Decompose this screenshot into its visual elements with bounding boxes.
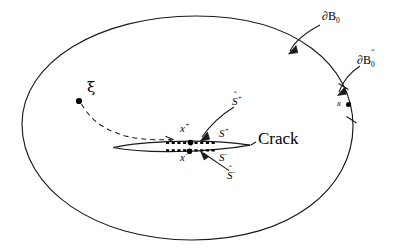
- smoothed-boundary-label-partial: ∂B: [357, 53, 371, 67]
- surface-lower-label: S-: [219, 152, 227, 163]
- outer-boundary-label-sub: 0: [336, 16, 340, 25]
- surface-upper-label: S+: [219, 128, 229, 139]
- crack-label-leader-line: [251, 142, 257, 145]
- source-point-label: ξ: [87, 80, 95, 95]
- hat-accent-icon: ˆ: [233, 91, 236, 100]
- crack-point-lower-marker: [187, 148, 193, 154]
- smoothed-boundary-leader-arrow: [339, 66, 360, 92]
- outer-boundary-label-text: ∂B: [322, 9, 336, 23]
- surface-hat-lower-label: ˆS-: [227, 170, 235, 181]
- figure-vector-layer: [0, 0, 415, 248]
- surface-hat-upper-hat-group: ˆS: [232, 96, 238, 107]
- crack-point-upper-marker: [188, 140, 194, 146]
- smoothed-boundary-label-sub: 0: [371, 60, 375, 69]
- smoothed-boundary-label: ∂Bˆ0: [357, 54, 375, 66]
- hat-accent-icon: ˆ: [371, 49, 374, 59]
- crack-lens-upper-face: [113, 141, 250, 147]
- boundary-tick-lower: [347, 117, 357, 124]
- crack-body-schematic-figure: ∂B0 ∂Bˆ0 x ξ x+ x- S+ S- ˆS+ ˆS- Crack: [0, 0, 415, 248]
- surface-lower-label-sup: -: [225, 150, 227, 157]
- crack-point-lower-label: x-: [180, 152, 187, 163]
- boundary-point-label: x: [337, 99, 341, 108]
- surface-upper-label-sup: +: [225, 126, 230, 133]
- surface-hat-upper-label-sup: +: [238, 94, 243, 101]
- crack-point-lower-label-sup: -: [185, 150, 187, 157]
- source-point-marker: [76, 98, 82, 104]
- outer-boundary-label: ∂B0: [322, 10, 340, 22]
- boundary-point-marker: [346, 102, 351, 107]
- crack-point-upper-label: x+: [180, 123, 190, 134]
- crack-label: Crack: [258, 130, 299, 147]
- surface-hat-lower-hat-group: ˆS: [227, 170, 233, 181]
- surface-hat-lower-arrowhead: [201, 151, 209, 160]
- hat-accent-icon: ˆ: [228, 165, 231, 174]
- surface-hat-upper-label: ˆS+: [232, 96, 242, 107]
- source-to-crack-dashed-path: [82, 104, 172, 140]
- crack-point-upper-label-sup: +: [185, 121, 190, 128]
- smoothed-boundary-hat-group: ˆ0: [371, 54, 375, 66]
